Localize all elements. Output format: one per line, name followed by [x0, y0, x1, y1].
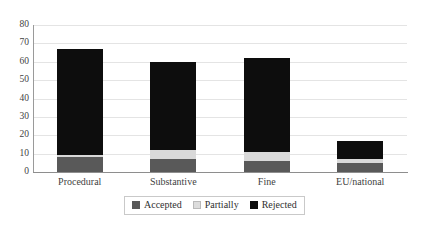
accepted-swatch: [132, 201, 140, 209]
y-axis-line: [33, 25, 34, 173]
bar-fine[interactable]: [244, 58, 290, 172]
y-tick-label: 70: [3, 38, 29, 48]
plot-area: [33, 25, 407, 172]
legend-item-accepted[interactable]: Accepted: [132, 199, 182, 211]
y-tick-label: 0: [3, 167, 29, 177]
rejected-swatch: [250, 201, 258, 209]
bar-segment-accepted[interactable]: [57, 157, 103, 172]
y-tick-label: 40: [3, 94, 29, 104]
y-tick-label: 10: [3, 149, 29, 159]
x-tick-label: EU/national: [314, 175, 408, 188]
legend-item-label: Partially: [205, 199, 239, 211]
bar-group: [33, 25, 407, 172]
bar-segment-accepted[interactable]: [150, 159, 196, 172]
legend: AcceptedPartiallyRejected: [124, 196, 305, 215]
bar-segment-rejected[interactable]: [57, 49, 103, 156]
y-tick-label: 20: [3, 130, 29, 140]
x-tick-label: Substantive: [127, 175, 221, 188]
bar-segment-partially[interactable]: [244, 152, 290, 161]
bar-segment-rejected[interactable]: [150, 62, 196, 150]
bar-substantive[interactable]: [150, 62, 196, 172]
y-tick-label: 60: [3, 57, 29, 67]
bar-segment-partially[interactable]: [150, 150, 196, 159]
partially-swatch: [193, 201, 201, 209]
x-tick-label: Fine: [220, 175, 314, 188]
x-tick-label: Procedural: [33, 175, 127, 188]
bar-segment-rejected[interactable]: [244, 58, 290, 152]
legend-item-label: Rejected: [262, 199, 297, 211]
x-axis: ProceduralSubstantiveFineEU/national: [33, 175, 407, 191]
y-tick-label: 30: [3, 112, 29, 122]
page-title: [0, 0, 441, 4]
y-axis: 80706050403020100: [0, 0, 29, 225]
stacked-bar-chart: 80706050403020100 ProceduralSubstantiveF…: [0, 0, 441, 225]
y-tick-label: 80: [3, 20, 29, 30]
bar-segment-accepted[interactable]: [337, 163, 383, 172]
legend-item-partially[interactable]: Partially: [193, 199, 239, 211]
legend-item-rejected[interactable]: Rejected: [250, 199, 297, 211]
bar-eu-national[interactable]: [337, 141, 383, 172]
y-tick-label: 50: [3, 75, 29, 85]
bar-procedural[interactable]: [57, 49, 103, 172]
x-axis-line: [33, 172, 408, 173]
legend-item-label: Accepted: [144, 199, 182, 211]
bar-segment-rejected[interactable]: [337, 141, 383, 159]
bar-segment-accepted[interactable]: [244, 161, 290, 172]
